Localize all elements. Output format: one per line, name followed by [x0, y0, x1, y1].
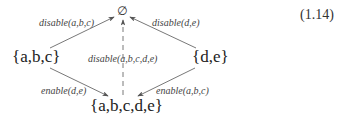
edge-label-enable-de: enable(d,e) — [41, 85, 86, 96]
edge-label-disable-de: disable(d,e) — [152, 17, 200, 28]
empty-set-node: ∅ — [117, 4, 127, 18]
node-abc: {a,b,c} — [12, 47, 60, 67]
node-de: {d,e} — [192, 47, 229, 67]
edge-label-enable-abc: enable(a,b,c) — [156, 85, 209, 96]
edge-label-disable-abcde: disable(a,b,c,d,e) — [88, 53, 157, 64]
equation-number: (1.14) — [300, 7, 334, 23]
node-abcde: {a,b,c,d,e} — [90, 96, 163, 116]
edge-label-disable-abc: disable(a,b,c) — [39, 17, 94, 28]
